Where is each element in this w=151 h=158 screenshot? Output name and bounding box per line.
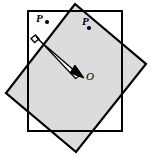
point-dot-p1 — [45, 20, 49, 24]
label-point-p2: P — [82, 16, 89, 27]
geometry-figure: P P O — [0, 0, 151, 158]
label-point-o: O — [86, 71, 94, 82]
label-point-p1: P — [36, 13, 43, 24]
figure-canvas — [0, 0, 151, 158]
